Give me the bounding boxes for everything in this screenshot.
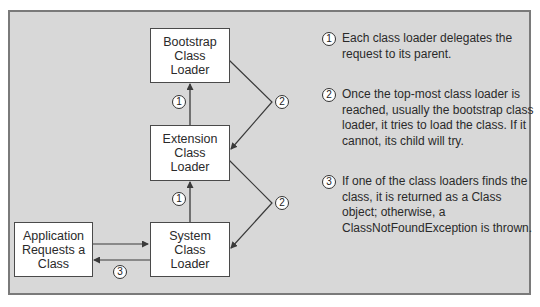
bootstrap-class-loader-box: Bootstrap Class Loader: [150, 28, 230, 83]
box-line: Loader: [169, 257, 211, 271]
box-line: System: [169, 229, 211, 243]
extension-class-loader-box: Extension Class Loader: [150, 125, 230, 181]
note-1: 1 Each class loader delegates the reques…: [322, 31, 537, 62]
step-2-marker-top: 2: [275, 95, 289, 109]
note-1-number: 1: [322, 32, 336, 46]
box-line: Class: [22, 257, 85, 271]
box-line: Requests a: [22, 243, 85, 257]
box-line: Application: [22, 229, 85, 243]
box-line: Loader: [163, 63, 217, 77]
note-3: 3 If one of the class loaders finds the …: [322, 174, 537, 236]
system-class-loader-box: System Class Loader: [150, 222, 230, 277]
step-1-marker-bottom: 1: [172, 192, 186, 206]
note-2: 2 Once the top-most class loader is reac…: [322, 87, 537, 149]
step-3-marker: 3: [113, 265, 127, 279]
box-line: Extension: [163, 132, 218, 146]
box-line: Class: [163, 146, 218, 160]
note-2-number: 2: [322, 88, 336, 102]
step-1-marker-top: 1: [172, 95, 186, 109]
step-2-marker-bottom: 2: [275, 196, 289, 210]
note-2-text: Once the top-most class loader is reache…: [342, 87, 537, 149]
box-line: Loader: [163, 160, 218, 174]
note-3-number: 3: [322, 175, 336, 189]
note-1-text: Each class loader delegates the request …: [342, 31, 537, 62]
box-line: Bootstrap: [163, 35, 217, 49]
box-line: Class: [169, 243, 211, 257]
note-3-text: If one of the class loaders finds the cl…: [342, 174, 537, 236]
application-requests-class-box: Application Requests a Class: [14, 222, 93, 277]
box-line: Class: [163, 49, 217, 63]
